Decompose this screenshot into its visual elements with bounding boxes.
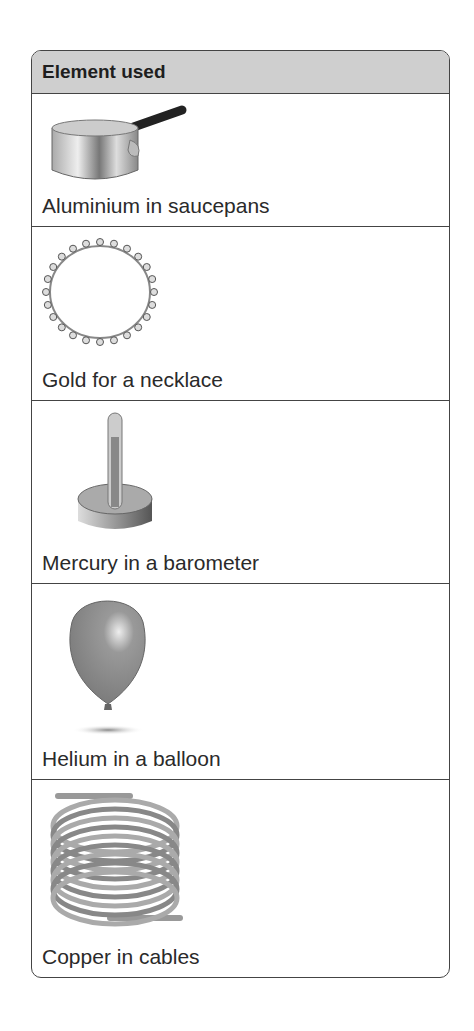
cable-coil-icon — [40, 786, 190, 936]
row-label: Aluminium in saucepans — [42, 194, 270, 218]
balloon-icon — [40, 592, 170, 742]
row-label: Helium in a balloon — [42, 747, 221, 771]
table-row: Helium in a balloon — [32, 584, 449, 780]
row-label: Copper in cables — [42, 945, 200, 969]
barometer-icon — [40, 409, 170, 539]
row-label: Gold for a necklace — [42, 368, 223, 392]
necklace-icon — [40, 237, 170, 357]
table-row: Aluminium in saucepans — [32, 94, 449, 227]
table-row: Gold for a necklace — [32, 227, 449, 401]
table-row: Mercury in a barometer — [32, 401, 449, 584]
table-row: Copper in cables — [32, 780, 449, 977]
saucepan-icon — [40, 100, 190, 190]
table-header: Element used — [32, 51, 449, 94]
elements-table: Element used Aluminium in saucepans Gold… — [31, 50, 450, 978]
row-label: Mercury in a barometer — [42, 551, 259, 575]
